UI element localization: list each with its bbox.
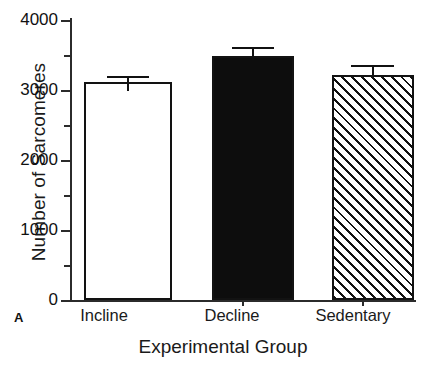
y-tick-3000 (61, 90, 70, 92)
y-minor-tick-3500 (64, 55, 70, 57)
y-tick-4000 (61, 20, 70, 22)
x-axis-title: Experimental Group (0, 336, 446, 358)
plot-area: 0 1000 2000 3000 4000 (70, 20, 416, 300)
bar-sedentary[interactable] (332, 75, 414, 300)
error-bar-incline-cap (107, 76, 149, 78)
x-category-label-sedentary: Sedentary (289, 306, 417, 325)
y-minor-tick-500 (64, 265, 70, 267)
figure-panel-a: Number of Sarcomeres 0 1000 2000 3000 40… (0, 0, 446, 366)
error-bar-incline-line (127, 76, 129, 91)
y-tick-label-4000: 4000 (20, 10, 58, 30)
y-axis-line (70, 18, 72, 302)
y-tick-label-1000: 1000 (20, 220, 58, 240)
error-bar-sedentary-cap (351, 65, 394, 67)
bar-decline[interactable] (212, 56, 294, 300)
x-category-label-incline: Incline (40, 306, 168, 325)
y-tick-label-3000: 3000 (20, 80, 58, 100)
y-minor-tick-2500 (64, 125, 70, 127)
y-tick-label-2000: 2000 (20, 150, 58, 170)
y-tick-2000 (61, 160, 70, 162)
y-tick-0 (61, 300, 70, 302)
y-tick-1000 (61, 230, 70, 232)
x-category-label-decline: Decline (168, 306, 296, 325)
bar-incline[interactable] (84, 82, 172, 300)
panel-label: A (14, 310, 23, 325)
error-bar-decline-cap (232, 47, 274, 49)
y-minor-tick-1500 (64, 195, 70, 197)
